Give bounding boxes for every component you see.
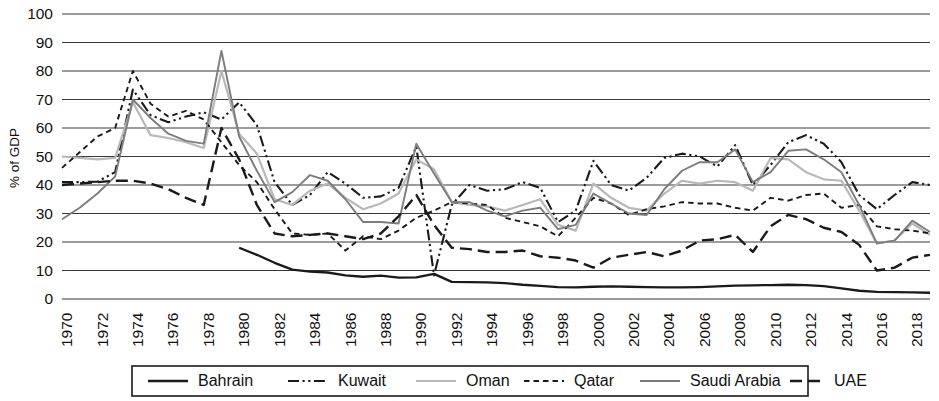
x-tick-label: 1990 xyxy=(412,312,429,347)
y-axis-title: % of GDP xyxy=(7,128,22,188)
y-tick-label: 50 xyxy=(36,148,54,165)
legend-label: UAE xyxy=(834,372,867,389)
series-line-qatar xyxy=(62,71,930,251)
legend-label: Oman xyxy=(466,372,510,389)
x-tick-label: 1998 xyxy=(554,313,571,347)
legend-label: Saudi Arabia xyxy=(690,372,781,389)
y-tick-label: 0 xyxy=(44,290,53,307)
legend-label: Qatar xyxy=(574,372,615,389)
x-tick-label: 1996 xyxy=(519,313,536,347)
chart-container: 0102030405060708090100 19701972197419761… xyxy=(0,0,939,401)
x-tick-label: 2002 xyxy=(625,313,642,347)
x-tick-label: 1972 xyxy=(94,313,111,347)
data-series-group xyxy=(62,51,930,293)
y-axis-label: % of GDP xyxy=(7,128,22,188)
x-tick-label: 1994 xyxy=(483,312,500,347)
line-chart: 0102030405060708090100 19701972197419761… xyxy=(0,0,939,401)
legend: BahrainKuwaitOmanQatarSaudi ArabiaUAE xyxy=(132,366,867,396)
y-tick-label: 80 xyxy=(36,62,54,79)
y-tick-label: 100 xyxy=(27,5,53,22)
x-tick-label: 2000 xyxy=(590,312,607,347)
series-line-saudi-arabia xyxy=(62,51,930,243)
x-tick-label: 2006 xyxy=(696,313,713,347)
x-tick-label: 2004 xyxy=(660,312,677,347)
x-tick-label: 1986 xyxy=(342,313,359,347)
x-tick-label: 1980 xyxy=(235,312,252,347)
x-tick-label: 1984 xyxy=(306,312,323,347)
x-tick-label: 1982 xyxy=(271,313,288,347)
x-tick-label: 2018 xyxy=(908,313,925,347)
legend-label: Kuwait xyxy=(338,372,387,389)
x-tick-label: 2014 xyxy=(838,312,855,347)
y-tick-label: 40 xyxy=(36,176,54,193)
y-tick-label: 10 xyxy=(36,262,54,279)
x-tick-label: 1970 xyxy=(58,312,75,347)
y-axis-tick-labels: 0102030405060708090100 xyxy=(27,5,53,307)
y-tick-label: 30 xyxy=(36,205,54,222)
x-tick-label: 2008 xyxy=(731,313,748,347)
x-tick-label: 1976 xyxy=(164,313,181,347)
x-tick-label: 1978 xyxy=(200,313,217,347)
y-tick-label: 90 xyxy=(36,34,54,51)
x-tick-label: 1992 xyxy=(448,313,465,347)
y-tick-label: 70 xyxy=(36,91,54,108)
series-line-oman xyxy=(62,71,930,243)
legend-label: Bahrain xyxy=(198,372,253,389)
x-tick-label: 2016 xyxy=(873,313,890,347)
x-tick-label: 1974 xyxy=(129,312,146,347)
x-tick-label: 2010 xyxy=(767,312,784,347)
gridlines xyxy=(62,14,930,299)
y-tick-label: 20 xyxy=(36,233,54,250)
y-tick-label: 60 xyxy=(36,119,54,136)
x-tick-label: 1988 xyxy=(377,313,394,347)
series-line-kuwait xyxy=(62,90,930,276)
x-axis-tick-labels: 1970197219741976197819801982198419861988… xyxy=(58,312,925,347)
x-tick-label: 2012 xyxy=(802,313,819,347)
